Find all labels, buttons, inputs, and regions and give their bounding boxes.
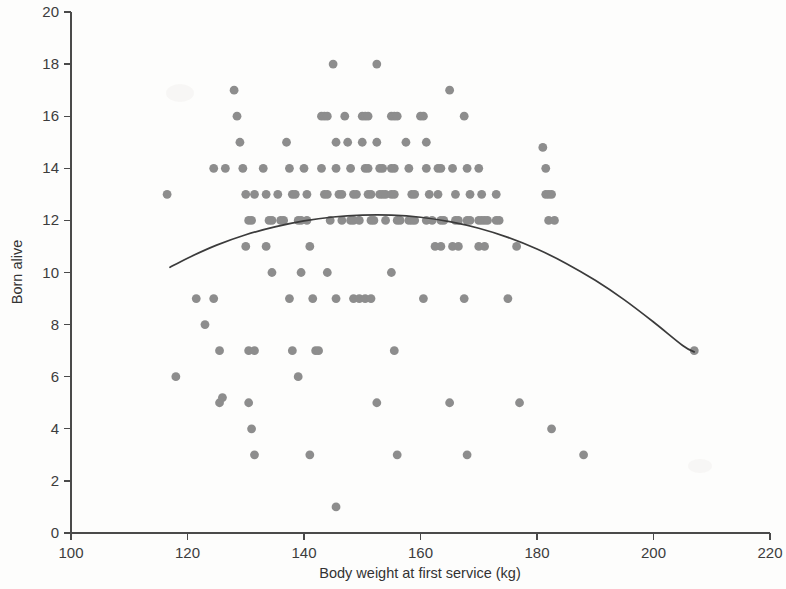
data-point <box>303 190 312 199</box>
y-tick-label: 4 <box>51 420 59 437</box>
data-point <box>372 398 381 407</box>
data-point <box>346 164 355 173</box>
data-point <box>393 112 402 121</box>
y-tick-label: 14 <box>42 159 59 176</box>
data-point <box>434 190 443 199</box>
data-point <box>215 346 224 355</box>
y-tick-label: 18 <box>42 55 59 72</box>
x-tick-label: 180 <box>524 544 549 561</box>
data-point <box>445 86 454 95</box>
x-tick-label: 220 <box>757 544 782 561</box>
data-point <box>364 190 373 199</box>
data-point <box>238 164 247 173</box>
data-point <box>332 138 341 147</box>
data-point <box>305 242 314 251</box>
data-point <box>209 294 218 303</box>
data-point <box>329 60 338 69</box>
data-point <box>404 164 413 173</box>
data-point <box>419 294 428 303</box>
y-tick-label: 6 <box>51 368 59 385</box>
data-point <box>247 216 256 225</box>
data-points <box>163 60 699 512</box>
y-tick-label: 10 <box>42 264 59 281</box>
data-point <box>515 398 524 407</box>
scatter-plot-svg: 02468101214161820100120140160180200220 B… <box>0 0 786 589</box>
data-point <box>367 294 376 303</box>
data-point <box>387 268 396 277</box>
scan-artifact-group <box>166 84 712 473</box>
data-point <box>291 190 300 199</box>
data-point <box>466 190 475 199</box>
data-point <box>282 138 291 147</box>
data-point <box>503 294 512 303</box>
data-point <box>480 242 489 251</box>
data-point <box>474 164 483 173</box>
data-point <box>285 164 294 173</box>
data-point <box>466 216 475 225</box>
data-point <box>250 190 259 199</box>
data-point <box>355 216 364 225</box>
data-point <box>352 190 361 199</box>
x-tick-label: 100 <box>58 544 83 561</box>
data-point <box>337 190 346 199</box>
x-tick-label: 200 <box>641 544 666 561</box>
data-point <box>492 190 501 199</box>
data-point <box>268 216 277 225</box>
data-point <box>460 294 469 303</box>
data-point <box>390 164 399 173</box>
data-point <box>297 268 306 277</box>
data-point <box>428 216 437 225</box>
data-point <box>460 112 469 121</box>
data-point <box>244 398 253 407</box>
data-point <box>192 294 201 303</box>
data-point <box>451 190 460 199</box>
data-point <box>340 112 349 121</box>
data-point <box>378 164 387 173</box>
data-point <box>364 164 373 173</box>
data-point <box>332 503 341 512</box>
data-point <box>422 138 431 147</box>
data-point <box>463 164 472 173</box>
data-point <box>541 164 550 173</box>
data-point <box>425 190 434 199</box>
data-point <box>218 393 227 402</box>
data-point <box>262 242 271 251</box>
data-point <box>209 164 218 173</box>
data-point <box>390 190 399 199</box>
axes: 02468101214161820100120140160180200220 <box>42 3 782 561</box>
data-point <box>163 190 172 199</box>
x-axis-title: Body weight at first service (kg) <box>319 565 520 581</box>
data-point <box>332 164 341 173</box>
data-point <box>448 164 457 173</box>
data-point <box>314 346 323 355</box>
data-point <box>372 60 381 69</box>
y-tick-label: 8 <box>51 316 59 333</box>
data-point <box>262 190 271 199</box>
data-point <box>579 450 588 459</box>
data-point <box>317 164 326 173</box>
y-tick-label: 2 <box>51 472 59 489</box>
data-point <box>454 242 463 251</box>
data-point <box>390 346 399 355</box>
data-point <box>308 294 317 303</box>
data-point <box>230 86 239 95</box>
y-tick-label: 16 <box>42 107 59 124</box>
data-point <box>241 242 250 251</box>
data-point <box>512 242 521 251</box>
data-point <box>305 450 314 459</box>
data-point <box>396 216 405 225</box>
data-point <box>402 138 411 147</box>
data-point <box>259 164 268 173</box>
data-point <box>285 294 294 303</box>
data-point <box>288 346 297 355</box>
data-point <box>323 268 332 277</box>
data-point <box>445 398 454 407</box>
data-point <box>393 450 402 459</box>
data-point <box>343 138 352 147</box>
data-point <box>241 190 250 199</box>
data-point <box>268 268 277 277</box>
data-point <box>410 190 419 199</box>
data-point <box>547 424 556 433</box>
data-point <box>550 216 559 225</box>
y-tick-label: 12 <box>42 211 59 228</box>
